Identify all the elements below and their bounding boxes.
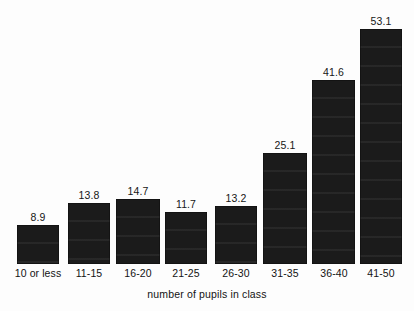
bar-rect: [263, 153, 307, 264]
bar-rect: [116, 199, 160, 264]
bar-rect: [17, 225, 59, 264]
bar-group: 14.7: [116, 0, 160, 264]
bar-group: 11.7: [165, 0, 207, 264]
category-axis: 10 or less 11-15 16-20 21-25 26-30 31-35…: [0, 266, 414, 284]
bar-group: 41.6: [312, 0, 355, 264]
x-axis-title: number of pupils in class: [0, 288, 414, 300]
bar-group: 25.1: [263, 0, 307, 264]
bar-value-label: 53.1: [371, 15, 392, 27]
bar-rect: [165, 212, 207, 264]
bar-group: 13.8: [68, 0, 110, 264]
plot-area: 8.9 13.8 14.7 11.7 13.2 25.1 41.6: [0, 0, 414, 264]
bar-value-label: 11.7: [176, 198, 196, 210]
bar-rect: [360, 29, 402, 264]
bar-value-label: 25.1: [275, 139, 296, 151]
bar-rect: [215, 206, 257, 264]
bar-value-label: 14.7: [128, 185, 149, 197]
bar-value-label: 8.9: [31, 211, 46, 223]
bar-value-label: 13.8: [79, 189, 100, 201]
bar-value-label: 41.6: [323, 66, 344, 78]
bar-value-label: 13.2: [226, 192, 247, 204]
bar-group: 53.1: [360, 0, 402, 264]
bar-group: 8.9: [17, 0, 59, 264]
bar-rect: [68, 203, 110, 264]
category-label: 41-50: [352, 266, 410, 280]
bar-group: 13.2: [215, 0, 257, 264]
bar-chart-figure: 8.9 13.8 14.7 11.7 13.2 25.1 41.6: [0, 0, 414, 311]
bar-rect: [312, 80, 355, 264]
